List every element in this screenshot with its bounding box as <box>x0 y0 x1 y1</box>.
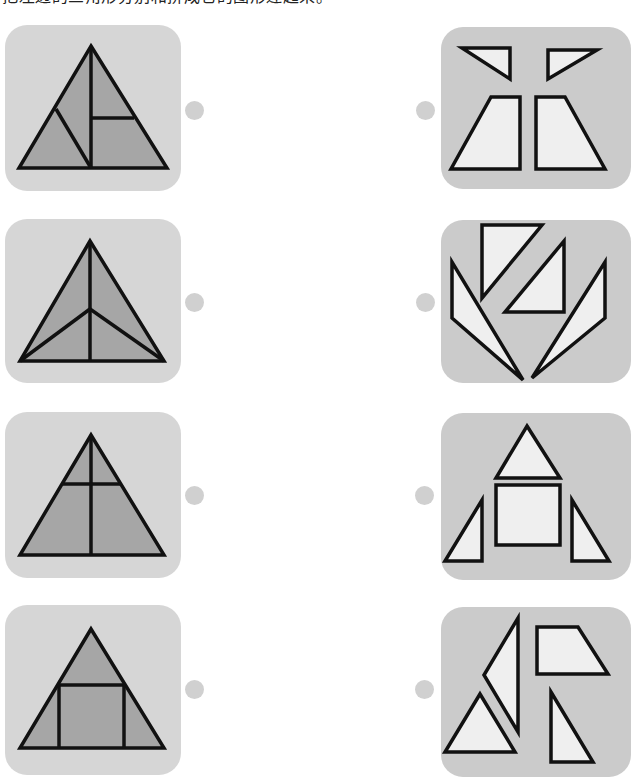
right-connect-dot[interactable] <box>416 293 435 312</box>
right-connect-dot[interactable] <box>415 680 434 699</box>
left-connect-dot[interactable] <box>185 293 204 312</box>
right-connect-dot[interactable] <box>416 101 435 120</box>
left-connect-dot[interactable] <box>185 486 204 505</box>
shape-piece <box>496 485 560 545</box>
right-connect-dot[interactable] <box>415 486 434 505</box>
left-connect-dot[interactable] <box>185 680 204 699</box>
left-connect-dot[interactable] <box>185 101 204 120</box>
instruction-text: 把左边的三角形分别和拼成它的图形连起来。 <box>2 0 332 5</box>
